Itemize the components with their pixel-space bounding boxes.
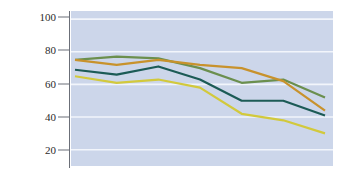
y-tick-mark-20 <box>58 150 69 151</box>
y-tick-label-100: 100 <box>40 11 57 23</box>
y-tick-mark-100 <box>58 17 69 18</box>
plot-canvas <box>71 11 333 166</box>
y-tick-label-60: 60 <box>45 78 56 90</box>
y-axis-tick-labels: 100 80 60 40 20 <box>22 0 56 179</box>
series-lines <box>75 57 325 134</box>
y-tick-mark-60 <box>58 84 69 85</box>
y-tick-mark-80 <box>58 50 69 51</box>
y-tick-label-40: 40 <box>45 111 56 123</box>
line-series-teal <box>75 66 325 115</box>
y-tick-label-20: 20 <box>45 144 56 156</box>
line-series-green <box>75 57 325 98</box>
y-tick-mark-40 <box>58 117 69 118</box>
chart-figure: Percentage satisfied 100 80 60 40 20 <box>0 0 344 179</box>
plot-area <box>71 11 333 166</box>
y-tick-label-80: 80 <box>45 44 56 56</box>
